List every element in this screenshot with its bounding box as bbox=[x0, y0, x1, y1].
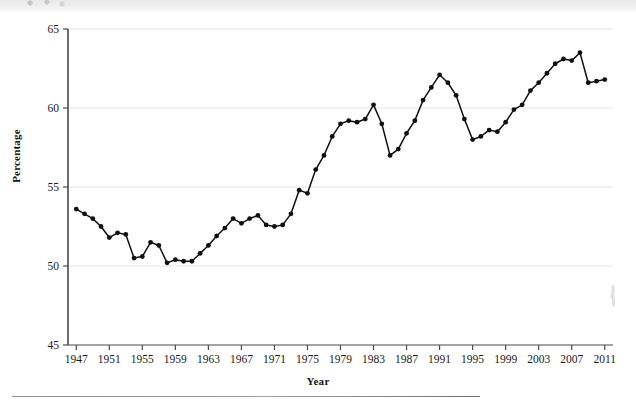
data-point bbox=[388, 153, 393, 158]
data-point bbox=[132, 256, 137, 261]
y-axis-tick-label: 65 bbox=[48, 23, 60, 35]
y-axis-tick-label: 45 bbox=[48, 339, 60, 351]
data-point bbox=[578, 50, 583, 55]
data-point bbox=[322, 153, 327, 158]
x-axis-tick-labels: 1947195119551959196319671971197519791983… bbox=[65, 353, 617, 365]
data-point bbox=[107, 235, 112, 240]
data-point bbox=[586, 80, 591, 85]
data-point bbox=[437, 72, 442, 77]
data-point bbox=[470, 137, 475, 142]
data-point bbox=[214, 234, 219, 239]
x-axis-tick-label: 1971 bbox=[263, 353, 286, 365]
data-point bbox=[396, 147, 401, 152]
data-point bbox=[90, 216, 95, 221]
data-series-markers bbox=[74, 50, 607, 265]
data-point bbox=[338, 121, 343, 126]
data-point bbox=[247, 216, 252, 221]
x-axis-ticks bbox=[76, 345, 604, 350]
data-point bbox=[272, 224, 277, 229]
series-polyline bbox=[76, 53, 604, 263]
data-point bbox=[82, 211, 87, 216]
data-point bbox=[148, 240, 153, 245]
data-point bbox=[181, 259, 186, 264]
data-point bbox=[280, 223, 285, 228]
data-point bbox=[123, 232, 128, 237]
x-axis-tick-label: 1967 bbox=[230, 353, 253, 365]
x-axis-title-text: Year bbox=[306, 375, 329, 387]
x-axis-tick-label: 2011 bbox=[593, 353, 616, 365]
x-axis-tick-label: 1987 bbox=[395, 353, 418, 365]
data-point bbox=[222, 226, 227, 231]
y-axis-tick-label: 55 bbox=[48, 181, 60, 193]
x-axis-tick-label: 2007 bbox=[560, 353, 583, 365]
data-point bbox=[528, 88, 533, 93]
data-point bbox=[189, 259, 194, 264]
data-point bbox=[115, 230, 120, 235]
chart-page: 4550556065 19471951195519591963196719711… bbox=[0, 0, 636, 407]
data-point bbox=[495, 129, 500, 134]
line-chart: 4550556065 19471951195519591963196719711… bbox=[0, 0, 636, 407]
data-point bbox=[330, 134, 335, 139]
data-point bbox=[74, 207, 79, 212]
data-point bbox=[553, 61, 558, 66]
data-point bbox=[421, 98, 426, 103]
data-point bbox=[429, 85, 434, 90]
data-point bbox=[462, 117, 467, 122]
data-point bbox=[99, 224, 104, 229]
data-point bbox=[297, 188, 302, 193]
y-axis-title-text: Percentage bbox=[10, 116, 22, 196]
x-axis-title: Year bbox=[0, 375, 636, 387]
data-point bbox=[371, 102, 376, 107]
data-point bbox=[545, 71, 550, 76]
data-point bbox=[289, 211, 294, 216]
data-point bbox=[363, 117, 368, 122]
data-point bbox=[602, 77, 607, 82]
data-point bbox=[198, 251, 203, 256]
y-axis-tick-label: 50 bbox=[48, 260, 60, 272]
x-axis-tick-label: 2003 bbox=[527, 353, 550, 365]
data-point bbox=[379, 121, 384, 126]
gridlines bbox=[68, 29, 613, 266]
x-axis-tick-label: 1983 bbox=[362, 353, 385, 365]
data-point bbox=[156, 243, 161, 248]
x-axis-tick-label: 1963 bbox=[197, 353, 220, 365]
data-point bbox=[346, 118, 351, 123]
data-point bbox=[305, 191, 310, 196]
data-point bbox=[445, 80, 450, 85]
data-point bbox=[404, 131, 409, 136]
x-axis-tick-label: 1975 bbox=[296, 353, 319, 365]
x-axis-tick-label: 1951 bbox=[98, 353, 121, 365]
x-axis-tick-label: 1979 bbox=[329, 353, 352, 365]
data-point bbox=[503, 120, 508, 125]
x-axis-tick-label: 1991 bbox=[428, 353, 451, 365]
footer-rule bbox=[12, 396, 480, 397]
data-point bbox=[355, 120, 360, 125]
chart-canvas: 4550556065 19471951195519591963196719711… bbox=[0, 0, 636, 407]
y-axis-tick-labels: 4550556065 bbox=[48, 23, 60, 351]
data-point bbox=[264, 223, 269, 228]
data-series-line bbox=[76, 53, 604, 263]
data-point bbox=[561, 57, 566, 62]
data-point bbox=[478, 134, 483, 139]
x-axis-tick-label: 1955 bbox=[131, 353, 154, 365]
data-point bbox=[173, 257, 178, 262]
data-point bbox=[165, 260, 170, 265]
y-axis-tick-label: 60 bbox=[48, 102, 60, 114]
data-point bbox=[231, 216, 236, 221]
data-point bbox=[256, 213, 261, 218]
data-point bbox=[239, 221, 244, 226]
data-point bbox=[536, 80, 541, 85]
data-point bbox=[140, 254, 145, 259]
data-point bbox=[454, 93, 459, 98]
y-axis-title: Percentage bbox=[10, 148, 22, 164]
x-axis-tick-label: 1999 bbox=[494, 353, 517, 365]
data-point bbox=[412, 118, 417, 123]
data-point bbox=[206, 243, 211, 248]
x-axis-tick-label: 1959 bbox=[164, 353, 187, 365]
data-point bbox=[487, 128, 492, 133]
x-axis-tick-label: 1947 bbox=[65, 353, 88, 365]
data-point bbox=[520, 102, 525, 107]
data-point bbox=[594, 79, 599, 84]
data-point bbox=[512, 107, 517, 112]
data-point bbox=[313, 167, 318, 172]
